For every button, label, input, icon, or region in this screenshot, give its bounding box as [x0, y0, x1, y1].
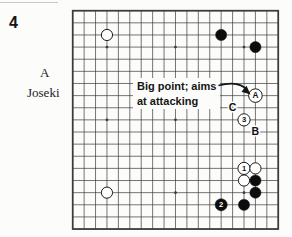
star-point — [174, 46, 177, 49]
stone-white — [101, 187, 112, 198]
point-label-C: C — [229, 101, 237, 113]
stone-black — [250, 187, 261, 198]
stone-white-labeled: 1 — [238, 162, 250, 174]
stone-circle — [250, 187, 261, 198]
stone-black-labeled: 2 — [215, 199, 227, 211]
stone-label: 2 — [219, 200, 223, 209]
star-point — [174, 118, 177, 121]
stone-black — [250, 175, 261, 186]
stone-white-labeled: A — [249, 89, 263, 103]
stone-circle — [250, 163, 261, 174]
stone-circle — [238, 199, 249, 210]
stone-black — [250, 41, 261, 52]
point-label-B: B — [252, 125, 260, 137]
annotation-line1: Big point; aims — [137, 80, 216, 92]
stone-circle — [238, 175, 249, 186]
stone-label: 3 — [242, 115, 246, 124]
star-point — [174, 191, 177, 194]
annotation-arrow-shaft — [219, 84, 248, 91]
annotation-line2: at attacking — [137, 95, 198, 107]
stone-white-labeled: 3 — [238, 114, 250, 126]
star-point — [243, 191, 246, 194]
stone-circle — [216, 29, 227, 40]
stone-white — [101, 29, 112, 40]
stone-circle — [250, 41, 261, 52]
star-point — [106, 118, 109, 121]
stone-white — [238, 175, 249, 186]
stone-label: A — [252, 91, 258, 100]
stone-black — [216, 29, 227, 40]
book-diagram-page: 4 A Joseki A312 CB Big point; aims at at… — [0, 0, 292, 237]
stone-circle — [250, 175, 261, 186]
stone-white — [250, 163, 261, 174]
star-point — [106, 46, 109, 49]
stone-circle — [101, 29, 112, 40]
stone-circle — [101, 187, 112, 198]
go-board: A312 CB Big point; aims at attacking — [0, 0, 292, 237]
star-point — [243, 46, 246, 49]
stone-black — [238, 199, 249, 210]
